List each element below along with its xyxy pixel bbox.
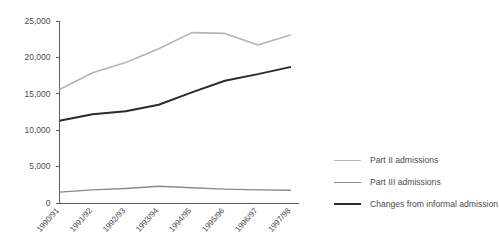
legend-item[interactable]: Changes from informal admission <box>334 193 499 215</box>
x-axis-tick-label: 1997/98 <box>266 206 292 234</box>
series-line <box>60 67 292 121</box>
x-axis-tick-label: 1990/91 <box>35 206 61 234</box>
y-axis-group: 05,00010,00015,00020,00025,000 <box>25 16 60 208</box>
y-axis-tick-label: 10,000 <box>25 125 51 135</box>
y-axis-tick-label: 0 <box>46 198 51 208</box>
y-axis-tick-label: 20,000 <box>25 52 51 62</box>
y-axis-ticks: 05,00010,00015,00020,00025,000 <box>25 16 60 208</box>
legend-item-label: Part III admissions <box>370 178 441 187</box>
legend-item[interactable]: Part II admissions <box>334 149 499 171</box>
x-axis-tick-label: 1993/94 <box>134 206 160 234</box>
legend-item-label: Part II admissions <box>370 156 438 165</box>
x-axis-tick-label: 1994/95 <box>167 206 193 234</box>
y-axis-tick-label: 15,000 <box>25 89 51 99</box>
chart-legend: Part II admissionsPart III admissionsCha… <box>334 149 499 215</box>
y-axis-tick-label: 25,000 <box>25 16 51 26</box>
x-axis-tick-label: 1996/97 <box>233 206 259 234</box>
legend-line-swatch <box>334 182 361 183</box>
series-line <box>60 33 292 90</box>
x-axis-tick-label: 1992/93 <box>101 206 127 234</box>
series-line <box>60 186 292 192</box>
x-axis-tick-labels: 1990/911991/921992/931993/941994/951995/… <box>35 206 293 234</box>
legend-item-label: Changes from informal admission <box>370 200 498 209</box>
x-axis-group: 1990/911991/921992/931993/941994/951995/… <box>35 204 299 234</box>
chart-container: 05,00010,00015,00020,00025,000 1990/9119… <box>0 0 499 248</box>
legend-line-swatch <box>334 160 361 161</box>
legend-item[interactable]: Part III admissions <box>334 171 499 193</box>
x-axis-tick-label: 1991/92 <box>68 206 94 234</box>
legend-line-swatch <box>334 203 361 205</box>
data-series-group <box>60 33 292 192</box>
x-axis-tick-label: 1995/96 <box>200 206 226 234</box>
y-axis-tick-label: 5,000 <box>29 161 51 171</box>
